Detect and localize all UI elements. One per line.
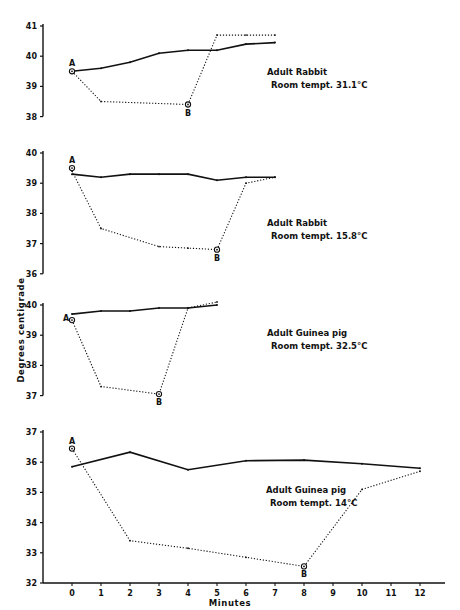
- x-axis: 0123456789101112: [43, 583, 445, 598]
- dotted-series-line: [72, 35, 275, 104]
- data-point-marker: [216, 34, 218, 36]
- annotation-circle-dot: [71, 70, 73, 72]
- data-point-marker: [187, 49, 189, 51]
- panel-1: 38394041ABAdult RabbitRoom tempt. 31.1°C: [26, 22, 368, 122]
- data-point-marker: [100, 310, 102, 312]
- solid-series-line: [72, 305, 217, 314]
- annotation-circle-dot: [71, 448, 73, 450]
- x-tick-label: 10: [356, 589, 368, 598]
- data-point-marker: [361, 488, 363, 490]
- panel-title: Adult Guinea pig: [267, 328, 347, 338]
- data-point-marker: [100, 101, 102, 103]
- annotation-label-b: B: [214, 254, 220, 263]
- x-tick-label: 7: [272, 589, 278, 598]
- data-point-marker: [129, 61, 131, 63]
- panel-title: Adult Rabbit: [267, 218, 327, 228]
- y-tick-label: 37: [26, 428, 37, 437]
- x-axis-title: Minutes: [209, 598, 252, 608]
- annotation-circle-dot: [71, 319, 73, 321]
- panels-layer: 38394041ABAdult RabbitRoom tempt. 31.1°C…: [26, 22, 421, 588]
- annotation-circle-dot: [71, 167, 73, 169]
- data-point-marker: [303, 459, 305, 461]
- dotted-series-line: [72, 302, 217, 394]
- panel-subtitle: Room tempt. 14°C: [270, 498, 357, 508]
- dotted-series-line: [72, 171, 275, 250]
- x-tick-label: 12: [414, 589, 425, 598]
- data-point-marker: [158, 52, 160, 54]
- y-tick-label: 34: [26, 519, 38, 528]
- dotted-series-line: [72, 449, 420, 567]
- y-tick-label: 32: [26, 579, 37, 588]
- y-tick-label: 38: [26, 113, 38, 122]
- y-tick-label: 36: [26, 270, 38, 279]
- y-tick-label: 35: [26, 488, 38, 497]
- data-point-marker: [216, 301, 218, 303]
- annotation-label-a: A: [63, 314, 70, 323]
- annotation-circle-dot: [303, 565, 305, 567]
- data-point-marker: [361, 463, 363, 465]
- data-point-marker: [187, 469, 189, 471]
- panel-subtitle: Room tempt. 32.5°C: [271, 341, 368, 351]
- x-tick-label: 11: [385, 589, 397, 598]
- annotation-label-a: A: [69, 437, 76, 446]
- y-tick-label: 37: [26, 392, 37, 401]
- annotation-label-b: B: [185, 109, 191, 118]
- data-point-marker: [100, 228, 102, 230]
- data-point-marker: [71, 173, 73, 175]
- y-tick-label: 33: [26, 549, 37, 558]
- y-tick-label: 38: [26, 361, 38, 370]
- data-point-marker: [245, 182, 247, 184]
- x-tick-label: 9: [330, 589, 336, 598]
- data-point-marker: [245, 34, 247, 36]
- data-point-marker: [100, 386, 102, 388]
- data-point-marker: [71, 313, 73, 315]
- data-point-marker: [158, 307, 160, 309]
- panel-title: Adult Guinea pig: [266, 485, 346, 495]
- data-point-marker: [245, 43, 247, 45]
- data-point-marker: [187, 307, 189, 309]
- chart-canvas: 38394041ABAdult RabbitRoom tempt. 31.1°C…: [0, 0, 460, 610]
- y-tick-label: 41: [26, 22, 38, 31]
- y-tick-label: 39: [26, 179, 38, 188]
- x-tick-label: 4: [185, 589, 191, 598]
- y-tick-label: 39: [26, 331, 38, 340]
- y-tick-label: 40: [26, 301, 38, 310]
- y-tick-label: 40: [26, 149, 38, 158]
- data-point-marker: [245, 556, 247, 558]
- data-point-marker: [129, 310, 131, 312]
- x-tick-label: 8: [301, 589, 307, 598]
- data-point-marker: [419, 470, 421, 472]
- data-point-marker: [71, 466, 73, 468]
- data-point-marker: [216, 49, 218, 51]
- data-point-marker: [274, 42, 276, 44]
- annotation-label-a: A: [69, 156, 76, 165]
- data-point-marker: [100, 176, 102, 178]
- y-tick-label: 36: [26, 458, 38, 467]
- x-tick-label: 5: [214, 589, 220, 598]
- annotation-label-b: B: [301, 570, 307, 579]
- panel-subtitle: Room tempt. 15.8°C: [271, 231, 368, 241]
- data-point-marker: [129, 173, 131, 175]
- panel-4: 323334353637ABAdult Guinea pigRoom tempt…: [26, 428, 421, 588]
- panel-subtitle: Room tempt. 31.1°C: [271, 80, 368, 90]
- data-point-marker: [129, 540, 131, 542]
- annotation-circle-dot: [216, 249, 218, 251]
- y-tick-label: 40: [26, 52, 38, 61]
- data-point-marker: [419, 467, 421, 469]
- data-point-marker: [158, 173, 160, 175]
- data-point-marker: [187, 173, 189, 175]
- data-point-marker: [129, 451, 131, 453]
- x-tick-label: 6: [243, 589, 249, 598]
- y-tick-label: 38: [26, 209, 38, 218]
- solid-series-line: [72, 43, 275, 72]
- data-point-marker: [187, 247, 189, 249]
- annotation-circle-dot: [158, 393, 160, 395]
- x-tick-label: 0: [69, 589, 75, 598]
- data-point-marker: [245, 460, 247, 462]
- annotation-label-b: B: [156, 398, 162, 407]
- panel-title: Adult Rabbit: [267, 67, 327, 77]
- annotation-circle-dot: [187, 104, 189, 106]
- data-point-marker: [216, 179, 218, 181]
- y-tick-label: 37: [26, 240, 37, 249]
- data-point-marker: [245, 176, 247, 178]
